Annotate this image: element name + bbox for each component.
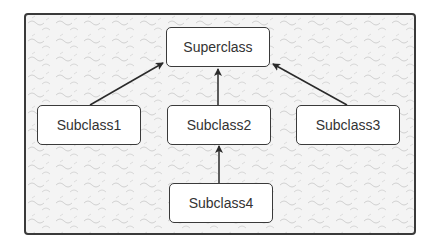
node-subclass3: Subclass3 — [296, 105, 400, 145]
edge-subclass3-superclass — [273, 64, 347, 105]
node-label: Subclass3 — [316, 117, 381, 133]
node-label: Subclass4 — [189, 195, 254, 211]
node-label: Superclass — [183, 39, 252, 55]
node-label: Subclass2 — [187, 117, 252, 133]
node-subclass1: Subclass1 — [37, 105, 141, 145]
node-label: Subclass1 — [57, 117, 122, 133]
node-superclass: Superclass — [166, 27, 270, 67]
node-subclass2: Subclass2 — [167, 105, 271, 145]
edge-subclass1-superclass — [90, 63, 163, 105]
node-subclass4: Subclass4 — [169, 183, 273, 223]
